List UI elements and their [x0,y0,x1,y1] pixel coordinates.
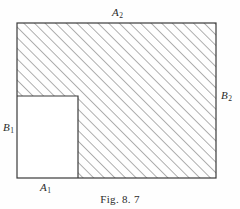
inner-rectangle [17,96,78,178]
label-b1: B1 [3,122,13,133]
label-b2: B2 [221,90,231,101]
label-a2: A2 [112,7,122,18]
label-a2-subscript: 2 [119,11,123,20]
figure-caption: Fig. 8. 7 [0,193,240,205]
label-b1-subscript: 1 [10,126,14,135]
figure-container: A2 B2 B1 A1 Fig. 8. 7 [0,0,240,209]
label-a1: A1 [40,182,50,193]
label-b2-base: B [221,89,228,101]
label-a1-base: A [40,181,47,193]
label-b1-base: B [3,121,10,133]
figure-drawing [0,0,240,209]
label-a2-base: A [112,6,119,18]
label-b2-subscript: 2 [228,94,232,103]
